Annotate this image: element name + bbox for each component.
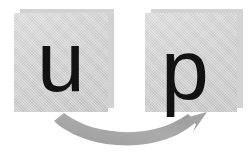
figure-canvas: u p (0, 0, 249, 159)
arrow-shaft (54, 113, 196, 145)
letter-tile-u-face: u (14, 13, 108, 112)
letter-tile-u: u (14, 13, 108, 112)
letter-glyph-p: p (161, 26, 209, 112)
letter-glyph-u: u (37, 18, 85, 104)
letter-tile-p-face: p (145, 13, 237, 112)
letter-tile-p: p (145, 13, 237, 112)
